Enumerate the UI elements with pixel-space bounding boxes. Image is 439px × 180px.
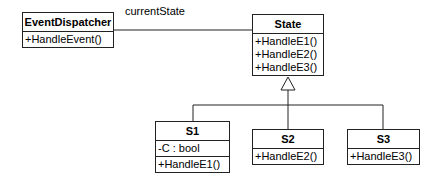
operations-section: +HandleE1() +HandleE2() +HandleE3(): [253, 34, 323, 75]
operations-section: +HandleE2(): [253, 149, 323, 164]
class-s2[interactable]: S2 +HandleE2(): [252, 129, 324, 165]
class-s1[interactable]: S1 -C : bool +HandleE1(): [155, 121, 230, 173]
attributes-section: -C : bool: [156, 141, 229, 157]
operation: +HandleE1(): [158, 158, 228, 171]
operations-section: +HandleEvent(): [23, 32, 113, 47]
operation: +HandleE3(): [255, 61, 322, 74]
operation: +HandleEvent(): [25, 33, 112, 46]
operations-section: +HandleE3(): [348, 149, 419, 164]
class-name: State: [253, 15, 323, 34]
operation: +HandleE1(): [255, 35, 322, 48]
class-event-dispatcher[interactable]: EventDispatcher +HandleEvent(): [22, 12, 114, 48]
operation: +HandleE3(): [350, 150, 418, 163]
attribute: -C : bool: [158, 142, 228, 155]
operations-section: +HandleE1(): [156, 157, 229, 172]
class-name: S3: [348, 130, 419, 149]
generalization-arrowhead-icon: [281, 77, 295, 90]
association-label: currentState: [125, 5, 185, 17]
class-s3[interactable]: S3 +HandleE3(): [347, 129, 420, 165]
class-name: EventDispatcher: [23, 13, 113, 32]
operation: +HandleE2(): [255, 150, 322, 163]
class-state[interactable]: State +HandleE1() +HandleE2() +HandleE3(…: [252, 14, 324, 76]
class-name: S1: [156, 122, 229, 141]
operation: +HandleE2(): [255, 48, 322, 61]
class-name: S2: [253, 130, 323, 149]
